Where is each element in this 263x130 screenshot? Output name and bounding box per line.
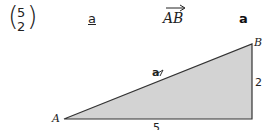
vertex-label-a: A bbox=[52, 112, 60, 125]
right-triangle-diagram bbox=[0, 0, 263, 130]
vertex-label-b: B bbox=[254, 36, 262, 49]
horizontal-side-label: 5 bbox=[153, 121, 160, 130]
vertical-side-label: 2 bbox=[255, 76, 262, 89]
triangle-shape bbox=[64, 44, 252, 119]
hypotenuse-label: a bbox=[152, 66, 159, 79]
